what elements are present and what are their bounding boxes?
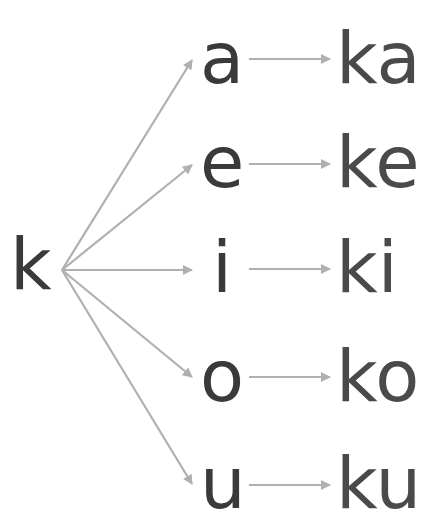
arrow-k-to-o [62, 270, 192, 377]
arrow-k-to-u [62, 270, 192, 484]
arrow-k-to-e [62, 165, 192, 270]
syllable-ku: ku [336, 447, 421, 519]
syllable-ka: ka [336, 22, 421, 94]
vowel-i: i [212, 231, 232, 303]
vowel-o: o [200, 340, 244, 412]
vowel-e: e [200, 126, 244, 198]
syllable-ke: ke [336, 126, 419, 198]
arrow-k-to-a [62, 60, 192, 270]
syllable-ko: ko [336, 340, 419, 412]
vowel-u: u [200, 447, 246, 519]
vowel-a: a [200, 22, 244, 94]
syllable-ki: ki [336, 231, 398, 303]
source-letter-k: k [10, 228, 52, 300]
